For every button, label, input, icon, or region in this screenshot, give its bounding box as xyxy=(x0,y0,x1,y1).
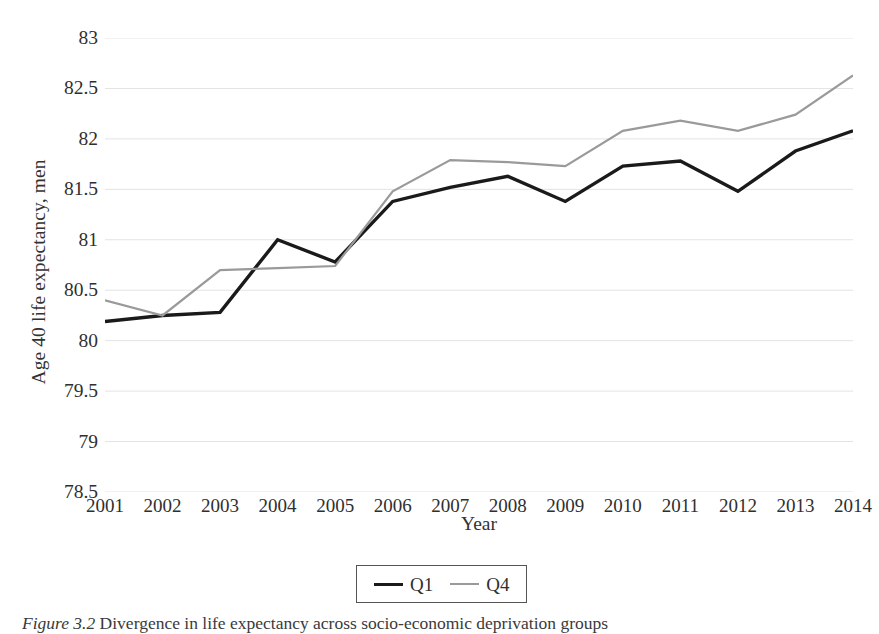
series-line-q1 xyxy=(105,131,853,322)
x-axis-title: Year xyxy=(105,513,853,535)
y-axis-tick-label: 80 xyxy=(40,330,98,352)
legend-label: Q4 xyxy=(486,575,509,594)
y-axis-tick-label: 79.5 xyxy=(40,380,98,402)
y-axis-tick-label: 81.5 xyxy=(40,178,98,200)
figure-caption-text: Divergence in life expectancy across soc… xyxy=(100,613,608,633)
chart-legend: Q1Q4 xyxy=(356,565,527,603)
figure-caption: Figure 3.2 Divergence in life expectancy… xyxy=(22,613,862,634)
legend-item-q4[interactable]: Q4 xyxy=(450,575,509,594)
y-axis-tick-label: 83 xyxy=(40,27,98,49)
legend-line-swatch-q1 xyxy=(374,583,403,586)
y-axis-tick-label: 80.5 xyxy=(40,279,98,301)
y-axis-tick-labels: 78.57979.58080.58181.58282.583 xyxy=(34,38,98,492)
plot-area xyxy=(105,38,853,492)
figure-caption-label: Figure 3.2 xyxy=(22,613,95,633)
y-axis-tick-label: 82 xyxy=(40,128,98,150)
y-axis-tick-label: 82.5 xyxy=(40,77,98,99)
gridlines xyxy=(105,38,853,492)
y-axis-tick-label: 81 xyxy=(40,229,98,251)
y-axis-tick-label: 79 xyxy=(40,431,98,453)
line-chart-svg xyxy=(105,38,853,492)
legend-item-q1[interactable]: Q1 xyxy=(374,575,433,594)
legend-label: Q1 xyxy=(410,575,433,594)
series-lines xyxy=(105,75,853,321)
legend-line-swatch-q4 xyxy=(450,583,479,585)
series-line-q4 xyxy=(105,75,853,315)
